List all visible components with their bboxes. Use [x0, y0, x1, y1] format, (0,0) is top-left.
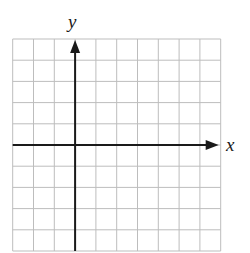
x-axis-arrow-icon: [206, 140, 219, 150]
y-axis-arrow-icon: [70, 40, 80, 53]
x-axis-label: x: [225, 134, 235, 155]
y-axis-label: y: [66, 11, 77, 32]
coordinate-plane: x y: [0, 0, 250, 253]
axes: [13, 40, 219, 251]
